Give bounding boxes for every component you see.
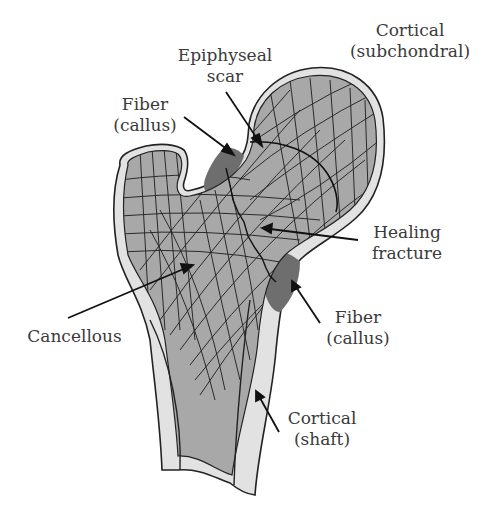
label-cortical-subchondral: Cortical (subchondral)	[335, 20, 485, 62]
label-fiber-callus-top: Fiber (callus)	[105, 94, 185, 136]
arrow-fiber-callus-bottom	[296, 287, 320, 323]
label-healing-fracture: Healing fracture	[362, 222, 452, 264]
label-fiber-callus-bottom: Fiber (callus)	[318, 307, 398, 349]
arrow-fiber-callus-top	[184, 117, 228, 150]
label-epiphyseal-scar: Epiphyseal scar	[170, 45, 280, 87]
femur-diagram: Cortical (subchondral) Epiphyseal scar F…	[0, 0, 489, 517]
label-cancellous: Cancellous	[22, 326, 127, 347]
label-cortical-shaft: Cortical (shaft)	[282, 408, 362, 450]
